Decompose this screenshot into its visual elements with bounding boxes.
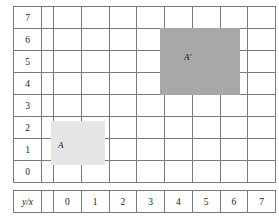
grid-cell (220, 161, 248, 183)
grid-cell (220, 51, 248, 73)
grid-cell (192, 29, 220, 51)
grid-cell (137, 29, 165, 51)
grid-cell (81, 161, 109, 183)
grid-cell (109, 29, 137, 51)
grid-row: 5 (14, 51, 276, 73)
grid-cell (192, 95, 220, 117)
grid-cell (81, 29, 109, 51)
grid-cell (137, 161, 165, 183)
grid-cell (220, 95, 248, 117)
grid-cell (54, 139, 82, 161)
grid-cell (165, 51, 193, 73)
grid-cell (109, 139, 137, 161)
grid-cell (137, 73, 165, 95)
grid-cell (192, 139, 220, 161)
x-label-1: 1 (81, 191, 109, 213)
grid-row: 1 (14, 139, 276, 161)
grid-row: 7 (14, 7, 276, 29)
grid-cell (54, 51, 82, 73)
grid-gutter-cell (42, 161, 54, 183)
grid-cell (192, 73, 220, 95)
y-label-2: 2 (14, 117, 42, 139)
grid-cell (248, 51, 276, 73)
x-label-0: 0 (54, 191, 82, 213)
grid-gutter-cell (42, 29, 54, 51)
grid-cell (248, 117, 276, 139)
grid-gutter-cell (42, 51, 54, 73)
grid-gutter-cell (42, 73, 54, 95)
grid-cell (81, 95, 109, 117)
grid-cell (54, 117, 82, 139)
grid-cell (165, 7, 193, 29)
grid-cell (220, 117, 248, 139)
grid-cell (54, 95, 82, 117)
y-label-1: 1 (14, 139, 42, 161)
grid-cell (54, 73, 82, 95)
grid-gutter-cell (42, 139, 54, 161)
grid-cell (109, 7, 137, 29)
grid-cell (220, 29, 248, 51)
grid-cell (165, 161, 193, 183)
x-label-3: 3 (137, 191, 165, 213)
grid-cell (248, 139, 276, 161)
grid-cell (192, 117, 220, 139)
grid-cell (248, 73, 276, 95)
y-label-6: 6 (14, 29, 42, 51)
x-axis-row: y/x 0 1 2 3 4 5 6 7 (14, 191, 276, 213)
x-label-5: 5 (192, 191, 220, 213)
y-label-3: 3 (14, 95, 42, 117)
figure-canvas: 7 6 (0, 0, 279, 220)
grid-cell (192, 7, 220, 29)
grid-cell (165, 29, 193, 51)
grid-gutter-cell (42, 95, 54, 117)
grid-row: 3 (14, 95, 276, 117)
grid-cell (81, 7, 109, 29)
grid-gutter-cell (42, 117, 54, 139)
grid-cell (248, 29, 276, 51)
grid-cell (54, 161, 82, 183)
grid-cell (248, 7, 276, 29)
grid-cell (220, 139, 248, 161)
grid-cell (192, 51, 220, 73)
grid-cell (81, 117, 109, 139)
grid-row: 0 (14, 161, 276, 183)
grid-cell (81, 73, 109, 95)
grid-gutter-cell (42, 7, 54, 29)
grid-cell (192, 161, 220, 183)
grid-row: 6 (14, 29, 276, 51)
grid-cell (109, 117, 137, 139)
grid-cell (165, 117, 193, 139)
grid-row: 2 (14, 117, 276, 139)
y-label-7: 7 (14, 7, 42, 29)
x-label-4: 4 (165, 191, 193, 213)
coordinate-grid: 7 6 (13, 6, 265, 183)
x-axis-table: y/x 0 1 2 3 4 5 6 7 (13, 190, 276, 213)
grid-cell (109, 95, 137, 117)
x-label-2: 2 (109, 191, 137, 213)
grid-cell (220, 73, 248, 95)
grid-cell (248, 95, 276, 117)
grid-cell (220, 7, 248, 29)
grid-cell (165, 139, 193, 161)
axis-corner-label: y/x (14, 191, 42, 213)
grid-cell (109, 51, 137, 73)
x-label-6: 6 (220, 191, 248, 213)
y-label-4: 4 (14, 73, 42, 95)
y-label-5: 5 (14, 51, 42, 73)
x-label-7: 7 (248, 191, 276, 213)
grid-cell (165, 95, 193, 117)
grid-cell (165, 73, 193, 95)
y-label-0: 0 (14, 161, 42, 183)
grid-cell (137, 51, 165, 73)
grid-cell (54, 7, 82, 29)
grid-cell (137, 95, 165, 117)
grid-cell (137, 7, 165, 29)
grid-cell (137, 139, 165, 161)
grid-cell (109, 73, 137, 95)
grid-cell (81, 139, 109, 161)
grid-cell (81, 51, 109, 73)
grid-row: 4 (14, 73, 276, 95)
grid-cell (54, 29, 82, 51)
grid-cell (137, 117, 165, 139)
x-axis-strip: y/x 0 1 2 3 4 5 6 7 (13, 190, 265, 213)
